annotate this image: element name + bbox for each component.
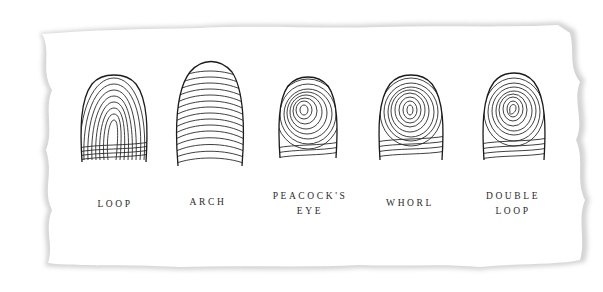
label-line: LOOP	[468, 204, 558, 219]
label-line: PEACOCK'S	[265, 189, 355, 204]
label-peacocks-eye: PEACOCK'S EYE	[265, 189, 355, 219]
label-line: ARCH	[163, 195, 253, 210]
label-line: WHORL	[365, 196, 455, 211]
fingerprint-peacocks-eye	[276, 72, 340, 164]
fingerprint-arch	[174, 60, 246, 172]
fingerprint-whorl	[376, 70, 446, 166]
label-whorl: WHORL	[365, 196, 455, 211]
label-line: LOOP	[70, 197, 160, 212]
label-arch: ARCH	[163, 195, 253, 210]
fingerprint-loop	[78, 70, 150, 170]
label-double-loop: DOUBLE LOOP	[468, 189, 558, 219]
fingerprint-double-loop	[480, 68, 548, 166]
label-line: DOUBLE	[468, 189, 558, 204]
label-loop: LOOP	[70, 197, 160, 212]
label-line: EYE	[265, 204, 355, 219]
